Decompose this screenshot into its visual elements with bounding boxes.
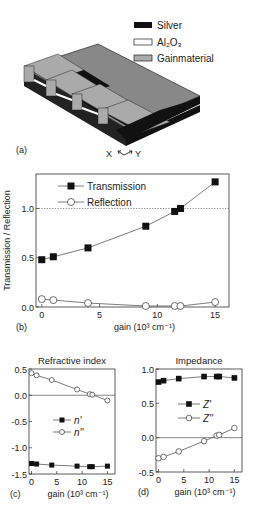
- svg-text:X: X: [106, 149, 112, 159]
- plot-frame: [36, 174, 229, 307]
- data-point-circle: [212, 299, 219, 306]
- y-tick-label: 1.0: [141, 365, 154, 375]
- data-point-square: [75, 464, 80, 469]
- y-tick-label: -0.5: [138, 468, 154, 478]
- data-point-circle: [176, 449, 182, 455]
- legend-swatch-al2o3: [134, 39, 152, 45]
- legend-marker-square: [68, 183, 75, 190]
- legend-label: Reflection: [87, 197, 131, 208]
- x-tick-label: 15: [102, 477, 112, 487]
- data-point-circle: [75, 387, 80, 392]
- data-point-circle: [232, 425, 238, 431]
- data-point-square: [142, 223, 149, 230]
- legend-swatch-gainmaterial: [134, 55, 152, 61]
- legend-label: n'': [74, 427, 84, 438]
- y-tick-label: -1.5: [11, 470, 27, 480]
- svg-text:Y: Y: [135, 149, 141, 159]
- x-tick-label: 0: [29, 477, 34, 487]
- data-point-circle: [201, 438, 207, 444]
- legend-marker-square: [60, 418, 65, 423]
- figure: Silver Al₂O₃ Gainmaterial (a) X Y 051015…: [0, 0, 253, 516]
- x-tick-label: 15: [229, 475, 239, 485]
- legend-label-silver: Silver: [157, 20, 183, 31]
- plot-frame: [29, 369, 115, 474]
- legend-marker-circle: [186, 415, 192, 421]
- data-point-square: [216, 374, 222, 380]
- legend-label: Z': [202, 399, 212, 410]
- y-tick-label: -0.5: [11, 417, 27, 427]
- y-tick-label: 0.5: [21, 253, 34, 263]
- series-line: [32, 373, 108, 400]
- legend-label: Transmission: [87, 181, 146, 192]
- chart-refractive-index: 0510150.50.0-0.5-1.0-1.5n'n''Refractive …: [10, 355, 115, 499]
- legend-label-al2o3: Al₂O₃: [157, 37, 182, 48]
- y-tick-label: 0.5: [141, 399, 154, 409]
- data-point-circle: [38, 296, 45, 303]
- data-point-circle: [161, 454, 167, 460]
- data-point-circle: [105, 398, 110, 403]
- x-tick-label: 10: [204, 475, 214, 485]
- y-tick-label: 1.0: [21, 204, 34, 214]
- legend-label: Z'': [202, 413, 214, 424]
- y-tick-label: 0.0: [14, 391, 27, 401]
- series-line: [159, 377, 235, 382]
- data-point-circle: [216, 432, 222, 438]
- data-point-circle: [177, 303, 184, 310]
- legend-label-gainmaterial: Gainmaterial: [157, 53, 214, 64]
- panel-label: (b): [16, 322, 27, 332]
- y-tick-label: 0.5: [14, 365, 27, 375]
- y-tick-label: 0.0: [21, 303, 34, 313]
- plot-frame: [156, 369, 242, 472]
- panel-a-label: (a): [16, 145, 27, 155]
- series-line: [42, 299, 215, 306]
- data-point-square: [212, 178, 219, 185]
- x-axis-label: gain (10³ cm⁻¹): [47, 489, 108, 499]
- y-tick-label: 0.0: [141, 433, 154, 443]
- x-tick-label: 5: [97, 310, 102, 320]
- chart-title: Impedance: [175, 355, 222, 366]
- data-point-square: [90, 464, 95, 469]
- data-point-circle: [156, 455, 162, 461]
- data-point-square: [177, 205, 184, 212]
- data-point-circle: [85, 300, 92, 307]
- panel-a-legend: Silver Al₂O₃ Gainmaterial: [134, 20, 214, 64]
- x-axis-label: gain (10³ cm⁻¹): [114, 322, 175, 332]
- data-point-square: [38, 256, 45, 263]
- data-point-circle: [34, 373, 39, 378]
- data-point-square: [176, 376, 182, 382]
- x-tick-label: 15: [210, 310, 220, 320]
- data-point-square: [156, 379, 162, 385]
- data-point-square: [49, 463, 54, 468]
- data-point-circle: [142, 303, 149, 310]
- series-line: [42, 182, 215, 260]
- panel-label: (c): [10, 489, 21, 499]
- chart-transmission-reflection: 0510150.00.51.0TransmissionReflectiongai…: [2, 174, 229, 332]
- y-tick-label: -1.0: [11, 443, 27, 453]
- data-point-square: [85, 244, 92, 251]
- series-line: [32, 464, 108, 467]
- data-point-circle: [29, 371, 34, 376]
- y-axis-label: Transmission / Reflection: [2, 190, 12, 291]
- xy-axis-hint: X Y: [106, 149, 141, 159]
- legend-marker-circle: [68, 199, 75, 206]
- x-tick-label: 0: [156, 475, 161, 485]
- x-axis-label: gain (10³ cm⁻¹): [174, 487, 235, 497]
- data-point-square: [161, 378, 167, 384]
- chart-impedance: 0510151.00.50.0-0.5Z'Z''Impedancegain (1…: [138, 355, 242, 497]
- data-point-circle: [49, 378, 54, 383]
- x-tick-label: 5: [54, 477, 59, 487]
- panel-label: (d): [138, 487, 149, 497]
- legend-label: n': [74, 415, 83, 426]
- data-point-square: [34, 462, 39, 467]
- data-point-circle: [50, 297, 57, 304]
- chart-title: Refractive index: [38, 355, 106, 366]
- data-point-square: [29, 461, 34, 466]
- legend-marker-circle: [60, 430, 65, 435]
- legend-swatch-silver: [134, 22, 152, 28]
- data-point-square: [105, 464, 110, 469]
- x-tick-label: 10: [77, 477, 87, 487]
- x-tick-label: 10: [152, 310, 162, 320]
- x-tick-label: 0: [39, 310, 44, 320]
- series-line: [159, 428, 235, 458]
- legend-marker-square: [186, 401, 192, 407]
